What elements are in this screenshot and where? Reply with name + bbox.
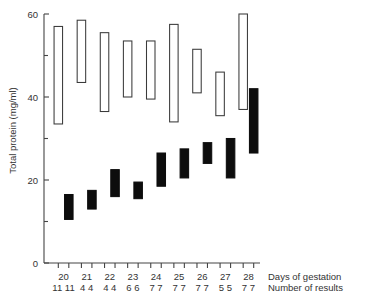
open-range-bar <box>216 72 225 116</box>
x-axis-tick-label: 21 <box>81 271 92 282</box>
range-bar-chart: 0204060Total protein (mg/ml)2011 11214 4… <box>0 0 366 302</box>
n-results-value: 7 7 <box>242 282 255 293</box>
filled-range-bar <box>180 149 189 178</box>
x-axis-tick-label: 26 <box>197 271 208 282</box>
filled-range-bar <box>226 139 235 178</box>
n-results-value: 5 5 <box>219 282 232 293</box>
x-axis-tick-label: 27 <box>220 271 231 282</box>
n-results-row-title: Number of results <box>268 282 343 293</box>
x-axis-title: Days of gestation <box>268 271 341 282</box>
open-range-bar <box>100 33 109 112</box>
x-axis-tick-label: 20 <box>58 271 69 282</box>
n-results-value: 4 4 <box>103 282 116 293</box>
n-results-value: 11 11 <box>52 282 74 293</box>
filled-range-bar <box>157 153 166 186</box>
filled-range-bar <box>134 182 143 199</box>
filled-range-bar <box>88 190 97 209</box>
y-axis-tick-label: 40 <box>27 92 38 103</box>
y-axis-tick-label: 20 <box>27 175 38 186</box>
open-range-bar <box>54 26 63 124</box>
n-results-value: 7 7 <box>196 282 209 293</box>
open-range-bar <box>239 14 248 109</box>
y-axis-tick-label: 0 <box>33 258 38 269</box>
x-axis-tick-label: 28 <box>243 271 254 282</box>
x-axis-tick-label: 22 <box>104 271 115 282</box>
filled-range-bar <box>65 195 74 220</box>
y-axis-title: Total protein (mg/ml) <box>7 87 18 174</box>
filled-range-bar <box>249 89 258 153</box>
filled-range-bar <box>203 143 212 164</box>
n-results-value: 7 7 <box>173 282 186 293</box>
open-range-bar <box>123 41 132 97</box>
chart-figure: 0204060Total protein (mg/ml)2011 11214 4… <box>0 0 366 302</box>
open-range-bar <box>147 41 156 99</box>
x-axis-tick-label: 23 <box>128 271 139 282</box>
n-results-value: 7 7 <box>149 282 162 293</box>
x-axis-tick-label: 25 <box>174 271 185 282</box>
x-axis-tick-label: 24 <box>151 271 162 282</box>
n-results-value: 6 6 <box>126 282 139 293</box>
y-axis-tick-label: 60 <box>27 9 38 20</box>
open-range-bar <box>170 24 179 122</box>
open-range-bar <box>77 20 86 82</box>
filled-range-bar <box>111 170 120 197</box>
n-results-value: 4 4 <box>80 282 93 293</box>
open-range-bar <box>193 49 202 93</box>
